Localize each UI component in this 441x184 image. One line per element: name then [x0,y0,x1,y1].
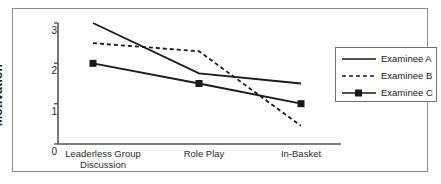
series-examinee-c [90,60,305,107]
series-line [93,23,301,84]
x-tick-role-play: Role Play [149,148,259,159]
legend-item-examinee-b: Examinee B [336,67,436,84]
data-point-marker [90,60,97,67]
legend-label: Examinee C [381,87,433,98]
data-point-marker [298,100,305,107]
legend-swatch-dashed [340,69,378,83]
legend-swatch-solid-square [340,86,378,100]
series-examinee-a [93,23,301,84]
series-layer [90,23,305,126]
legend-label: Examinee B [381,70,432,81]
x-tick-line2: Discussion [33,159,173,170]
chart-frame: Motivation 3 2 1 0 Leaderless Group Disc… [12,8,428,172]
x-tick-line1: Role Play [149,148,259,159]
x-tick-line1: In-Basket [246,148,356,159]
legend-swatch-solid [340,52,378,66]
legend-label: Examinee A [381,53,432,64]
legend-item-examinee-c: Examinee C [336,84,436,101]
y-axis-label: Motivation [0,45,5,145]
data-point-marker [196,80,203,87]
chart-figure: Motivation 3 2 1 0 Leaderless Group Disc… [0,0,441,184]
legend-item-examinee-a: Examinee A [336,50,436,67]
chart-legend: Examinee A Examinee B Examinee C [335,47,437,102]
x-tick-in-basket: In-Basket [246,148,356,159]
